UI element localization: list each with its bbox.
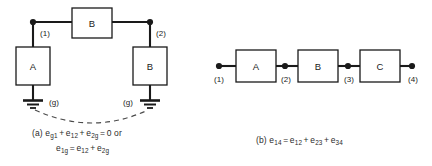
subscript-14: 14 (274, 139, 281, 146)
subscript-12: 12 (81, 147, 88, 154)
subscript-12: 12 (71, 132, 78, 139)
caption-b-prefix: (b) (256, 135, 267, 145)
node-2-label: (2) (281, 75, 291, 84)
term-e23: e23 (310, 135, 322, 145)
node-1-label: (1) (40, 29, 50, 38)
zero-value: 0 (107, 128, 112, 138)
block-b-label: B (315, 61, 321, 72)
ground-left-icon (23, 101, 43, 109)
term-e2g: e2g (86, 128, 98, 138)
ground-left-label: (g) (49, 98, 59, 107)
node-4-label: (4) (408, 75, 418, 84)
node-3-label: (3) (344, 75, 354, 84)
plus-1: + (58, 128, 66, 138)
equals-1: = (99, 128, 107, 138)
caption-a-line2: e1g=e12+e2g (56, 143, 109, 153)
node-1-label: (1) (214, 75, 224, 84)
caption-a-line1: (a) eg1+e12+e2g=0 or (32, 128, 122, 138)
figure-root: A B B (1) (2) (g) (g (0, 0, 432, 166)
ground-right-label: (g) (123, 98, 133, 107)
subscript-2g: 2g (91, 132, 98, 139)
subscript-12: 12 (295, 139, 302, 146)
e-symbol: e (331, 135, 336, 145)
panel-a-group: A B B (1) (2) (g) (g (16, 8, 167, 123)
node-3-dot (345, 63, 351, 69)
subscript-34: 34 (336, 139, 343, 146)
block-a-label: A (30, 61, 37, 72)
term-e12: e12 (66, 128, 78, 138)
node-2-label: (2) (156, 29, 166, 38)
equals-3: = (282, 135, 290, 145)
node-2-dot (147, 19, 153, 25)
caption-a-prefix: (a) (32, 128, 43, 138)
ground-loop-dashed-arc (35, 110, 148, 123)
e-symbol: e (66, 128, 71, 138)
plus-5: + (323, 135, 331, 145)
term-e14: e14 (269, 135, 281, 145)
term-e34: e34 (331, 135, 343, 145)
subscript-2g: 2g (102, 147, 109, 154)
subscript-g1: g1 (50, 132, 57, 139)
node-4-dot (409, 63, 415, 69)
node-2-dot (282, 63, 288, 69)
block-b-top-label: B (89, 18, 95, 29)
e-symbol: e (290, 135, 295, 145)
node-1-dot (30, 19, 36, 25)
block-b-right-label: B (147, 61, 153, 72)
or-word: or (114, 128, 122, 138)
plus-3: + (89, 143, 97, 153)
panel-b-group: A B C (1) (2) (3) (4) (214, 50, 418, 84)
subscript-1g: 1g (61, 147, 68, 154)
term-e12: e12 (290, 135, 302, 145)
caption-b-line1: (b) e14=e12+e23+e34 (256, 135, 343, 145)
term-e12: e12 (76, 143, 88, 153)
term-eg1: eg1 (45, 128, 57, 138)
diagram-canvas: A B B (1) (2) (g) (g (0, 0, 432, 166)
term-e1g: e1g (56, 143, 68, 153)
block-a-label: A (253, 61, 260, 72)
block-c-label: C (377, 61, 384, 72)
node-1-dot (216, 63, 222, 69)
term-e2g: e2g (97, 143, 109, 153)
subscript-23: 23 (315, 139, 322, 146)
ground-right-icon (140, 101, 160, 109)
